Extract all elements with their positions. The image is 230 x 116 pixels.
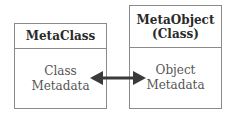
class-metadata-line-1: Class (44, 64, 77, 79)
metaobject-header: MetaObject (Class) (130, 6, 221, 48)
metaclass-box: MetaClass Class Metadata (14, 23, 107, 109)
metaclass-header: MetaClass (15, 24, 106, 49)
class-metadata-line-2: Metadata (31, 79, 89, 94)
metaclass-title: MetaClass (26, 29, 96, 43)
object-metadata-line-2: Metadata (146, 78, 204, 93)
object-metadata-line-1: Object (156, 63, 196, 78)
metaobject-title-line-1: MetaObject (137, 13, 215, 27)
metaobject-title-line-2: (Class) (152, 27, 199, 41)
metaobject-box: MetaObject (Class) Object Metadata (129, 5, 222, 109)
bidirectional-arrow-icon (90, 70, 146, 86)
